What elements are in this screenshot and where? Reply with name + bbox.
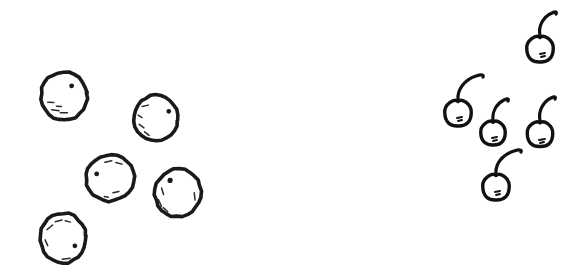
ball-crater-dash-3 (60, 112, 67, 114)
cherry-highlight-mark-1 (457, 117, 462, 118)
ball-crater-dash-5 (62, 258, 70, 259)
cherry-highlight-mark-2 (493, 140, 497, 141)
cherry-highlight-mark-2 (540, 142, 544, 143)
cherry-highlight-mark-2 (541, 56, 545, 57)
ball-crater-dash-1 (48, 101, 54, 103)
cherry-fruit (527, 36, 554, 62)
ball-crater-dash-4 (104, 196, 108, 197)
sketch-scene (0, 0, 575, 273)
cherry-highlight-mark-2 (458, 120, 462, 121)
cherry-highlight-mark-1 (540, 53, 545, 54)
drawing-canvas (0, 0, 575, 273)
cherry-fruit (483, 174, 510, 200)
cherry-highlight-mark-1 (492, 137, 497, 138)
cherry-highlight-mark-1 (539, 139, 545, 140)
cherry-highlight-mark-2 (496, 194, 500, 195)
ball-crater-dash-4 (56, 105, 61, 107)
cherry-fruit (445, 100, 472, 126)
cherry-highlight-mark-1 (495, 191, 500, 192)
